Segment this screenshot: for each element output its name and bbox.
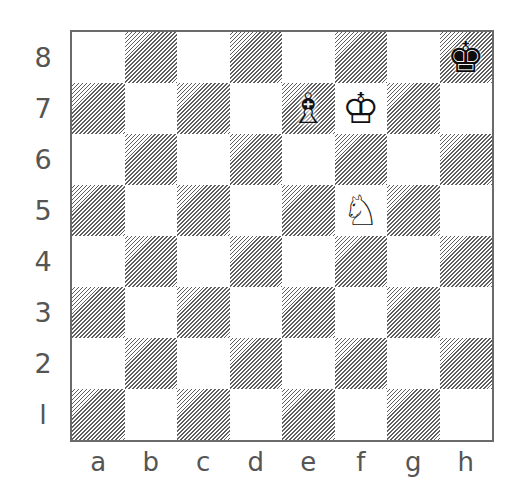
square-h3[interactable] xyxy=(440,287,493,338)
square-e4[interactable] xyxy=(282,236,335,287)
square-e2[interactable] xyxy=(282,338,335,389)
square-c8[interactable] xyxy=(177,32,230,83)
square-a2[interactable] xyxy=(72,338,125,389)
square-e7[interactable]: ♗ xyxy=(282,83,335,134)
square-h4[interactable] xyxy=(440,236,493,287)
file-label: d xyxy=(230,447,283,477)
square-e5[interactable] xyxy=(282,185,335,236)
file-label: b xyxy=(125,447,178,477)
file-label: g xyxy=(387,447,440,477)
file-label: a xyxy=(72,447,125,477)
rank-label: 4 xyxy=(30,236,56,287)
rank-label: 6 xyxy=(30,134,56,185)
square-e3[interactable] xyxy=(282,287,335,338)
square-f1[interactable] xyxy=(335,389,388,440)
square-h5[interactable] xyxy=(440,185,493,236)
file-label: c xyxy=(177,447,230,477)
square-f7[interactable]: ♔ xyxy=(335,83,388,134)
square-h7[interactable] xyxy=(440,83,493,134)
square-e6[interactable] xyxy=(282,134,335,185)
square-b3[interactable] xyxy=(125,287,178,338)
square-b7[interactable] xyxy=(125,83,178,134)
square-h8[interactable]: ♚ xyxy=(440,32,493,83)
square-c1[interactable] xyxy=(177,389,230,440)
square-c5[interactable] xyxy=(177,185,230,236)
square-g2[interactable] xyxy=(387,338,440,389)
square-a5[interactable] xyxy=(72,185,125,236)
square-f6[interactable] xyxy=(335,134,388,185)
square-f4[interactable] xyxy=(335,236,388,287)
black-king-icon[interactable]: ♚ xyxy=(447,37,485,79)
square-d3[interactable] xyxy=(230,287,283,338)
square-g7[interactable] xyxy=(387,83,440,134)
square-g6[interactable] xyxy=(387,134,440,185)
rank-label: 5 xyxy=(30,185,56,236)
square-b8[interactable] xyxy=(125,32,178,83)
rank-label: 2 xyxy=(30,338,56,389)
rank-label: 3 xyxy=(30,287,56,338)
file-label: e xyxy=(282,447,335,477)
square-g8[interactable] xyxy=(387,32,440,83)
square-g5[interactable] xyxy=(387,185,440,236)
square-a8[interactable] xyxy=(72,32,125,83)
rank-label: l xyxy=(30,389,56,440)
white-king-icon[interactable]: ♔ xyxy=(342,88,380,130)
square-a7[interactable] xyxy=(72,83,125,134)
square-a3[interactable] xyxy=(72,287,125,338)
square-a1[interactable] xyxy=(72,389,125,440)
chess-board: ♚♗♔♘ xyxy=(70,30,494,442)
square-e1[interactable] xyxy=(282,389,335,440)
square-c3[interactable] xyxy=(177,287,230,338)
square-b2[interactable] xyxy=(125,338,178,389)
square-b6[interactable] xyxy=(125,134,178,185)
white-bishop-icon[interactable]: ♗ xyxy=(289,88,327,130)
square-e8[interactable] xyxy=(282,32,335,83)
square-d1[interactable] xyxy=(230,389,283,440)
square-c4[interactable] xyxy=(177,236,230,287)
square-a6[interactable] xyxy=(72,134,125,185)
square-d4[interactable] xyxy=(230,236,283,287)
square-c2[interactable] xyxy=(177,338,230,389)
square-d2[interactable] xyxy=(230,338,283,389)
square-h1[interactable] xyxy=(440,389,493,440)
square-g3[interactable] xyxy=(387,287,440,338)
rank-label: 7 xyxy=(30,83,56,134)
square-h2[interactable] xyxy=(440,338,493,389)
square-a4[interactable] xyxy=(72,236,125,287)
square-g1[interactable] xyxy=(387,389,440,440)
square-d8[interactable] xyxy=(230,32,283,83)
square-d6[interactable] xyxy=(230,134,283,185)
square-b4[interactable] xyxy=(125,236,178,287)
square-h6[interactable] xyxy=(440,134,493,185)
square-d5[interactable] xyxy=(230,185,283,236)
square-d7[interactable] xyxy=(230,83,283,134)
file-label: f xyxy=(335,447,388,477)
file-label: h xyxy=(440,447,493,477)
square-g4[interactable] xyxy=(387,236,440,287)
square-c6[interactable] xyxy=(177,134,230,185)
square-f3[interactable] xyxy=(335,287,388,338)
square-c7[interactable] xyxy=(177,83,230,134)
square-b1[interactable] xyxy=(125,389,178,440)
square-b5[interactable] xyxy=(125,185,178,236)
square-f5[interactable]: ♘ xyxy=(335,185,388,236)
rank-label: 8 xyxy=(30,32,56,83)
square-f8[interactable] xyxy=(335,32,388,83)
square-f2[interactable] xyxy=(335,338,388,389)
white-knight-icon[interactable]: ♘ xyxy=(342,190,380,232)
